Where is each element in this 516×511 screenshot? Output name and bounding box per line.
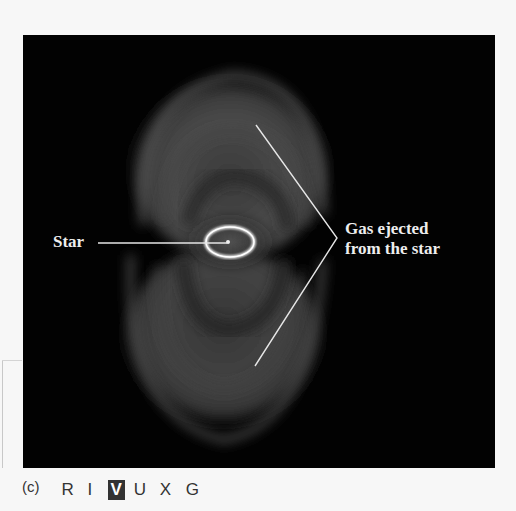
gas-label-line1: Gas ejected [345,219,440,239]
band-g: G [186,480,212,500]
page-frame-edge-top [2,360,22,361]
nebula-image: Star Gas ejected from the star [23,35,495,468]
band-v-active: V [108,480,125,500]
band-r: R [62,480,88,500]
lower-lobe [123,247,323,443]
gas-label-line2: from the star [345,239,440,259]
figure-caption: (c) R I V U X G [22,474,212,506]
gas-ejected-label: Gas ejected from the star [345,219,440,259]
band-u: U [134,480,160,500]
panel-id: (c) [22,478,40,495]
band-x: X [160,480,186,500]
page-frame-edge [2,360,3,468]
star-label: Star [53,232,84,252]
